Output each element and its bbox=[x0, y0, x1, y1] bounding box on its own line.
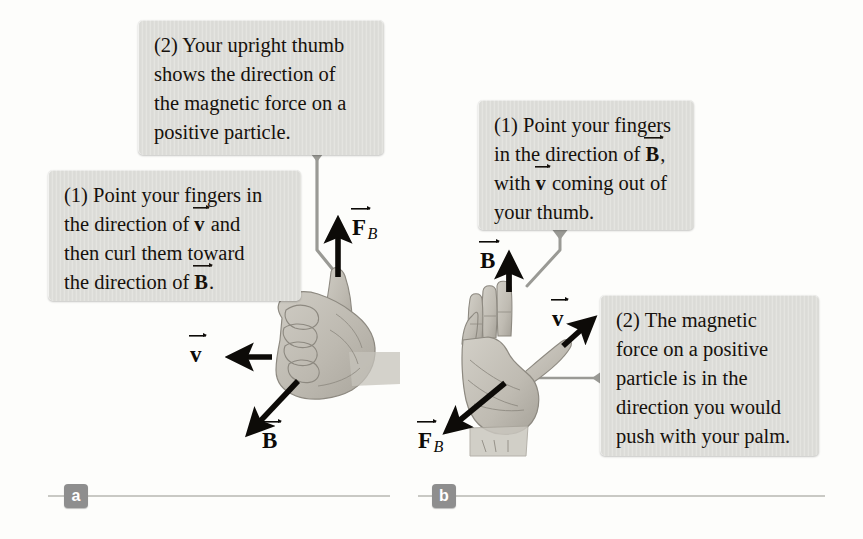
a-callout-1-vector-v: v bbox=[194, 213, 205, 235]
b-callout-2-line-2: force on a positive bbox=[616, 335, 805, 364]
b-vector-v-arrow bbox=[563, 320, 592, 346]
b-callout-2-line-5: push with your palm. bbox=[616, 422, 805, 451]
b-callout-1-vector-B: B bbox=[645, 143, 660, 165]
a-vector-B-symbol: B bbox=[262, 428, 278, 453]
panel-b-badge: b bbox=[432, 484, 456, 508]
b-vector-FB-subscript: B bbox=[434, 438, 444, 455]
a-vector-FB-label: FB bbox=[352, 215, 377, 243]
a-callout-1-line-4-pre: the direction of bbox=[64, 271, 194, 293]
right-hand-rule-figure: (2) Your upright thumb shows the directi… bbox=[0, 0, 863, 539]
a-callout-1-line-4: the direction of B. bbox=[64, 268, 287, 297]
b-callout-2-line-4: direction you would bbox=[616, 393, 805, 422]
b-callout-1: (1) Point your fingers in the direction … bbox=[478, 100, 694, 230]
b-vector-B-label: B bbox=[480, 248, 496, 274]
a-callout-2-line-1: (2) Your upright thumb bbox=[154, 31, 370, 60]
b-callout-2-line-3: particle is in the bbox=[616, 364, 805, 393]
b-vector-v-label: v bbox=[552, 306, 565, 332]
b-callout-1-line-2: in the direction of B, bbox=[494, 140, 680, 169]
panel-a-badge: a bbox=[64, 484, 88, 508]
a-callout-2-line-3: the magnetic force on a bbox=[154, 89, 370, 118]
b-callout-1-line-2-pre: in the direction of bbox=[494, 143, 645, 165]
a-vector-v-symbol: v bbox=[190, 342, 203, 367]
b-callout-2: (2) The magnetic force on a positive par… bbox=[600, 295, 819, 456]
a-callout-2-line-2: shows the direction of bbox=[154, 60, 370, 89]
b-vector-B-symbol: B bbox=[480, 248, 496, 273]
a-callout-1-line-2: the direction of v and bbox=[64, 210, 287, 239]
b-callout-1-vector-v: v bbox=[536, 172, 547, 194]
b-callout-1-line-2-post: , bbox=[660, 143, 665, 165]
a-callout-1-line-2-pre: the direction of bbox=[64, 213, 194, 235]
b-callout-1-line-3: with v coming out of bbox=[494, 169, 680, 198]
b-callout-1-line-3-pre: with bbox=[494, 172, 536, 194]
panel-a-rule bbox=[48, 495, 390, 497]
a-callout-1-line-3: then curl them toward bbox=[64, 239, 287, 268]
a-vector-B-label: B bbox=[262, 428, 278, 454]
a-callout-1-line-2-post: and bbox=[206, 213, 241, 235]
a-callout-1-line-1: (1) Point your fingers in bbox=[64, 181, 287, 210]
b-callout-1-line-4: your thumb. bbox=[494, 198, 680, 227]
a-callout-2: (2) Your upright thumb shows the directi… bbox=[138, 20, 384, 155]
b-vector-v-symbol: v bbox=[552, 306, 565, 331]
panel-b-rule bbox=[418, 495, 825, 497]
a-vector-v-label: v bbox=[190, 342, 203, 368]
b-callout-2-line-1: (2) The magnetic bbox=[616, 306, 805, 335]
a-callout-1: (1) Point your fingers in the direction … bbox=[48, 170, 301, 301]
a-vector-FB-symbol: F bbox=[352, 215, 367, 240]
a-callout-2-line-4: positive particle. bbox=[154, 118, 370, 147]
a-callout-2-leader bbox=[308, 150, 339, 277]
b-callout-1-leader bbox=[527, 228, 569, 286]
a-callout-1-vector-B: B bbox=[194, 271, 209, 293]
b-vector-FB-label: FB bbox=[418, 428, 443, 456]
a-callout-1-line-4-post: . bbox=[209, 271, 214, 293]
a-vector-FB-subscript: B bbox=[368, 225, 378, 242]
b-callout-1-line-3-post: coming out of bbox=[547, 172, 667, 194]
b-vector-FB-symbol: F bbox=[418, 428, 433, 453]
